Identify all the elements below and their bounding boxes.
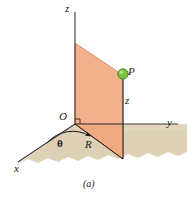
- point-P-label: P: [128, 66, 135, 77]
- z-axis-label: z: [65, 3, 69, 14]
- point-P-highlight: [120, 70, 124, 74]
- origin-label: O: [59, 111, 67, 122]
- x-axis-label: x: [14, 163, 19, 174]
- point-P-marker: [118, 69, 128, 79]
- height-z-label: z: [125, 95, 129, 106]
- theta-angle-label: θ: [57, 138, 63, 149]
- y-axis-label: y: [167, 117, 172, 128]
- radial-R-label: R: [85, 139, 92, 150]
- cylindrical-coordinates-diagram: [0, 0, 187, 199]
- figure-container: z y x O P z θ R (a): [0, 0, 187, 199]
- figure-caption: (a): [83, 179, 95, 189]
- point-P-circle: [118, 69, 128, 79]
